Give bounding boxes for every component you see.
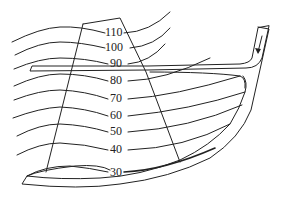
contour-label-30: 30 [110, 165, 122, 179]
contour-lines-right [124, 12, 245, 172]
contour-label-40: 40 [110, 142, 122, 156]
contour-label-100: 100 [105, 40, 123, 54]
contour-label-70: 70 [110, 91, 122, 105]
contour-label-50: 50 [110, 124, 122, 138]
channel-inner-wall [27, 76, 246, 179]
hull-line [150, 72, 245, 88]
contour-labels: 110 100 90 80 70 60 50 40 30 [105, 25, 123, 179]
contour-label-60: 60 [110, 108, 122, 122]
contour-lines-left [12, 27, 108, 176]
contour-diagram: 110 100 90 80 70 60 50 40 30 [0, 0, 295, 199]
contour-label-80: 80 [110, 73, 122, 87]
contour-label-110: 110 [105, 25, 123, 39]
contour-label-90: 90 [110, 56, 122, 70]
channel-outer-wall [30, 26, 269, 71]
